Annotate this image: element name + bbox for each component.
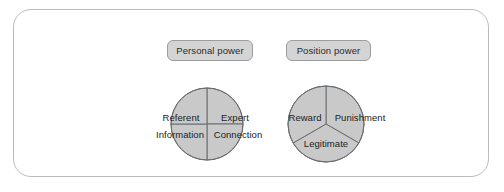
group-label-personal-power: Personal power [167, 40, 253, 61]
diagram-frame: Personal power Referent Expert Informati… [13, 9, 489, 177]
pie-chart-position-power: Reward Punishment Legitimate [288, 86, 364, 162]
pie-position-power-svg [288, 86, 364, 162]
pie-personal-power-svg [171, 88, 243, 160]
pie-chart-personal-power: Referent Expert Information Connection [171, 88, 243, 160]
group-label-position-power: Position power [286, 40, 371, 61]
